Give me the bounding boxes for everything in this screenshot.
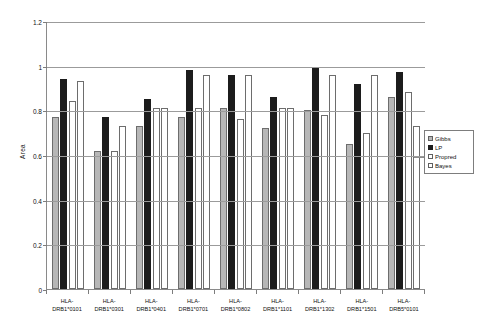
bar-propred <box>405 92 412 289</box>
bar-bayes <box>371 75 378 289</box>
legend-item-gibbs[interactable]: Gibbs <box>428 134 471 143</box>
legend-item-propred[interactable]: Propred <box>428 152 471 161</box>
x-axis-tick-mark <box>46 290 88 296</box>
bar-lp <box>186 70 193 289</box>
bar-propred <box>111 151 118 289</box>
x-axis-label-line2: DRB1*1101 <box>257 305 299 313</box>
x-axis-label-line1: HLA- <box>214 297 256 305</box>
x-axis-label-line2: DRB1*1302 <box>299 305 341 313</box>
legend-item-bayes[interactable]: Bayes <box>428 161 471 170</box>
x-axis-label-line2: DRB1*0802 <box>214 305 256 313</box>
x-axis-tick-mark <box>130 290 172 296</box>
x-axis-ticks <box>46 290 425 296</box>
x-axis-label-line2: DRB1*0401 <box>130 305 172 313</box>
gridline <box>47 245 425 246</box>
legend-item-label: LP <box>435 145 442 151</box>
bar-propred <box>237 119 244 289</box>
bar-propred <box>69 101 76 289</box>
bar-gibbs <box>178 117 185 289</box>
bar-bayes <box>119 126 126 289</box>
y-axis-tick-mark <box>43 67 47 68</box>
gridline <box>47 67 425 68</box>
x-axis-label-line1: HLA- <box>172 297 214 305</box>
gridline <box>47 156 425 157</box>
x-axis-label: HLA-DRB1*0301 <box>88 297 130 313</box>
bar-chart: Area 00.20.40.60.811.2 HLA-DRB1*0101HLA-… <box>0 0 480 333</box>
x-axis-label-line1: HLA- <box>299 297 341 305</box>
x-axis-label: HLA-DRB1*1302 <box>299 297 341 313</box>
x-axis-label: HLA-DRB1*1101 <box>257 297 299 313</box>
y-axis-tick-mark <box>43 201 47 202</box>
propred-swatch <box>428 154 433 159</box>
x-axis-label-line2: DRB1*1501 <box>341 305 383 313</box>
x-axis-tick-mark <box>257 290 299 296</box>
y-axis-tick-mark <box>43 111 47 112</box>
bar-propred <box>279 108 286 289</box>
x-axis-label-line1: HLA- <box>46 297 88 305</box>
bar-bayes <box>413 126 420 289</box>
x-axis-tick-mark <box>383 290 425 296</box>
x-axis-label-line1: HLA- <box>88 297 130 305</box>
gibbs-swatch <box>428 136 433 141</box>
gridline <box>47 201 425 202</box>
y-axis-tick-mark <box>43 156 47 157</box>
gridline <box>47 22 425 23</box>
x-axis-label-line1: HLA- <box>383 297 425 305</box>
x-axis-label-line1: HLA- <box>341 297 383 305</box>
x-axis-label-line2: DRB5*0101 <box>383 305 425 313</box>
x-axis-tick-mark <box>88 290 130 296</box>
bar-gibbs <box>388 97 395 289</box>
bar-lp <box>270 97 277 289</box>
legend-item-label: Bayes <box>435 163 452 169</box>
bar-lp <box>102 117 109 289</box>
bar-bayes <box>77 81 84 289</box>
x-axis-label: HLA-DRB1*0802 <box>214 297 256 313</box>
x-axis-labels: HLA-DRB1*0101HLA-DRB1*0301HLA-DRB1*0401H… <box>46 297 425 313</box>
bar-bayes <box>329 75 336 289</box>
bar-gibbs <box>52 117 59 289</box>
bar-gibbs <box>136 126 143 289</box>
bar-lp <box>144 99 151 289</box>
x-axis-tick-mark <box>214 290 256 296</box>
bar-propred <box>195 108 202 289</box>
bar-propred <box>153 108 160 289</box>
legend-item-lp[interactable]: LP <box>428 143 471 152</box>
bar-lp <box>396 72 403 289</box>
chart-legend: GibbsLPPropredBayes <box>424 130 474 174</box>
bar-lp <box>228 75 235 289</box>
gridline <box>47 111 425 112</box>
bar-gibbs <box>262 128 269 289</box>
x-axis-tick-mark <box>299 290 341 296</box>
bar-bayes <box>287 108 294 289</box>
bayes-swatch <box>428 163 433 168</box>
x-axis-label: HLA-DRB1*0101 <box>46 297 88 313</box>
bar-bayes <box>245 75 252 289</box>
lp-swatch <box>428 145 433 150</box>
x-axis-label-line2: DRB1*0101 <box>46 305 88 313</box>
y-axis-tick-mark <box>43 22 47 23</box>
y-axis-tick-mark <box>43 245 47 246</box>
y-axis-title: Area <box>19 132 26 172</box>
x-axis-label: HLA-DRB5*0101 <box>383 297 425 313</box>
bar-gibbs <box>346 144 353 289</box>
x-axis-label-line1: HLA- <box>130 297 172 305</box>
x-axis-tick-mark <box>341 290 383 296</box>
legend-item-label: Gibbs <box>435 136 451 142</box>
x-axis-label-line2: DRB1*0301 <box>88 305 130 313</box>
bar-propred <box>321 115 328 289</box>
plot-area: 00.20.40.60.811.2 <box>46 22 425 290</box>
x-axis-label-line2: DRB1*0701 <box>172 305 214 313</box>
x-axis-label: HLA-DRB1*0701 <box>172 297 214 313</box>
bar-lp <box>354 84 361 289</box>
x-axis-tick-mark <box>172 290 214 296</box>
legend-item-label: Propred <box>435 154 456 160</box>
bar-lp <box>312 68 319 289</box>
bar-gibbs <box>94 151 101 289</box>
x-axis-label: HLA-DRB1*0401 <box>130 297 172 313</box>
bar-bayes <box>203 75 210 289</box>
bar-gibbs <box>220 108 227 289</box>
bar-bayes <box>161 108 168 289</box>
x-axis-label: HLA-DRB1*1501 <box>341 297 383 313</box>
x-axis-label-line1: HLA- <box>257 297 299 305</box>
